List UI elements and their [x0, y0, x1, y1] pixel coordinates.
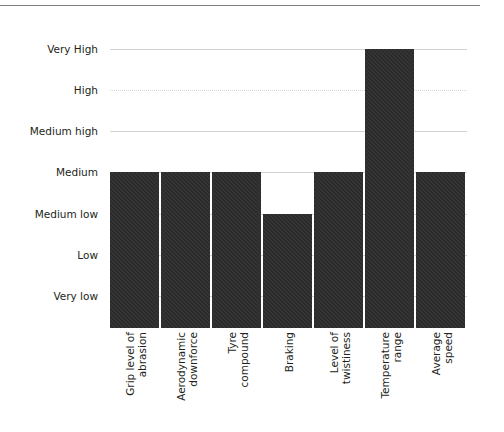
x-tick-label-line2: downforce [187, 332, 199, 401]
bar-temperature-range[interactable] [365, 49, 414, 328]
bar-grip-level-of-abrasion[interactable] [110, 172, 159, 328]
bar-tyre-compound[interactable] [212, 172, 261, 328]
y-tick-label-medium-high: Medium high [0, 126, 98, 137]
x-tick-label-line2: compound [238, 332, 250, 388]
x-tick-label-line2: twistiness [340, 332, 352, 384]
y-tick-label-medium-low: Medium low [0, 209, 98, 220]
x-tick-label-line2: speed [442, 332, 454, 375]
bar-chart-figure: Very High High Medium high Medium Medium… [0, 0, 504, 432]
x-tick-label-line1: Aerodynamic [174, 332, 186, 401]
x-tick-aerodynamic-downforce: Aerodynamic downforce [161, 330, 212, 430]
x-tick-label-line1: Temperature [378, 332, 390, 399]
x-tick-label-line2: range [391, 332, 403, 399]
x-tick-label-line1: Average [429, 332, 441, 375]
x-tick-level-of-twistiness: Level of twistiness [314, 330, 365, 430]
x-tick-grip-level-of-abrasion: Grip level of abrasion [110, 330, 161, 430]
y-tick-label-low: Low [0, 250, 98, 261]
x-axis: Grip level of abrasion Aerodynamic downf… [110, 330, 467, 430]
y-tick-label-very-low: Very low [0, 291, 98, 302]
x-tick-braking: Braking [263, 330, 314, 430]
x-tick-label-line1: Tyre [225, 332, 237, 354]
y-tick-label-medium: Medium [0, 167, 98, 178]
y-tick-label-very-high: Very High [0, 44, 98, 55]
x-tick-label-line1: Braking [282, 332, 294, 372]
x-tick-average-speed: Average speed [416, 330, 467, 430]
bar-level-of-twistiness[interactable] [314, 172, 363, 328]
bar-series [110, 40, 467, 328]
bar-aerodynamic-downforce[interactable] [161, 172, 210, 328]
x-tick-label-line2: abrasion [136, 332, 148, 396]
bar-average-speed[interactable] [416, 172, 465, 328]
x-tick-temperature-range: Temperature range [365, 330, 416, 430]
x-tick-tyre-compound: Tyre compound [212, 330, 263, 430]
x-tick-label-line1: Level of [327, 332, 339, 373]
y-tick-label-high: High [0, 85, 98, 96]
x-tick-label-line1: Grip level of [123, 332, 135, 396]
bar-braking[interactable] [263, 214, 312, 328]
